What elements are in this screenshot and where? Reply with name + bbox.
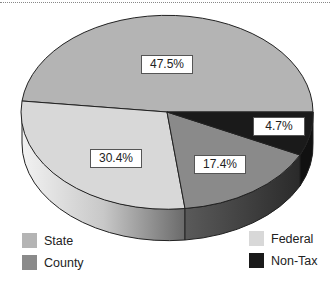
swatch-nontax	[249, 253, 264, 268]
swatch-federal	[249, 231, 264, 246]
legend-state: State	[22, 233, 73, 248]
swatch-state	[22, 233, 37, 248]
label-nontax: 4.7%	[253, 117, 305, 136]
label-state: 47.5%	[141, 55, 193, 74]
label-county: 17.4%	[194, 155, 246, 174]
swatch-county	[22, 255, 37, 270]
legend-county: County	[22, 255, 84, 270]
label-federal: 30.4%	[90, 149, 142, 168]
legend-federal: Federal	[249, 231, 313, 246]
legend-nontax: Non-Tax	[249, 253, 318, 268]
